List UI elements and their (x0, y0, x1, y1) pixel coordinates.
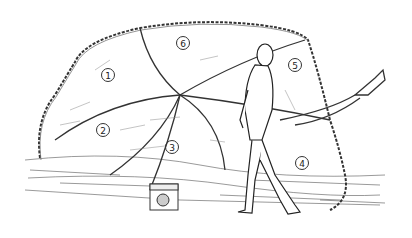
boulder-drawing (0, 0, 412, 238)
label-6: 6 (176, 36, 190, 50)
pole-and-boot (280, 70, 385, 125)
label-3: 3 (165, 140, 179, 154)
label-1: 1 (101, 68, 115, 82)
illustration-canvas: 1 2 3 4 5 6 (0, 0, 412, 238)
label-5: 5 (288, 58, 302, 72)
ground-texture (25, 156, 385, 205)
sign-box (150, 184, 178, 210)
rope-net (55, 28, 330, 190)
label-4: 4 (295, 156, 309, 170)
label-2: 2 (96, 123, 110, 137)
